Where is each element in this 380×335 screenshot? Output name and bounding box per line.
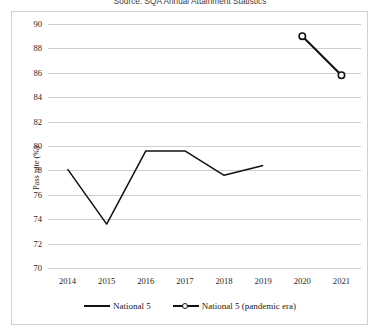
- series-line: [68, 151, 264, 224]
- legend-label: National 5: [113, 301, 151, 311]
- x-tick-label: 2017: [165, 277, 205, 286]
- plot-area: [48, 24, 361, 268]
- y-tick-label: 86: [16, 69, 42, 78]
- legend-entry[interactable]: National 5: [84, 301, 151, 311]
- y-tick-label: 80: [16, 142, 42, 151]
- data-point-marker: [299, 33, 305, 39]
- legend-entry[interactable]: National 5 (pandemic era): [173, 301, 296, 311]
- legend-line-marker-icon: [173, 301, 199, 311]
- x-tick-label: 2016: [126, 277, 166, 286]
- gridline: [48, 268, 361, 269]
- y-tick-label: 72: [16, 240, 42, 249]
- series-line: [302, 36, 341, 75]
- x-tick-label: 2014: [48, 277, 88, 286]
- x-tick-label: 2019: [243, 277, 283, 286]
- y-tick-label: 74: [16, 215, 42, 224]
- data-point-marker: [338, 72, 344, 78]
- x-tick-label: 2018: [204, 277, 244, 286]
- y-tick-label: 78: [16, 166, 42, 175]
- source-caption: Source: SQA Annual Attainment Statistics: [0, 0, 380, 7]
- y-tick-label: 90: [16, 20, 42, 29]
- legend-line-icon: [84, 301, 110, 311]
- y-tick-label: 70: [16, 264, 42, 273]
- y-tick-label: 76: [16, 191, 42, 200]
- x-tick-label: 2020: [282, 277, 322, 286]
- series-layer: [48, 24, 361, 268]
- x-tick-label: 2021: [321, 277, 361, 286]
- chart-figure: Source: SQA Annual Attainment Statistics…: [0, 0, 380, 335]
- y-tick-label: 84: [16, 93, 42, 102]
- y-tick-label: 88: [16, 44, 42, 53]
- x-tick-label: 2015: [87, 277, 127, 286]
- y-tick-label: 82: [16, 118, 42, 127]
- chart-legend: National 5National 5 (pandemic era): [0, 301, 380, 311]
- legend-label: National 5 (pandemic era): [202, 301, 296, 311]
